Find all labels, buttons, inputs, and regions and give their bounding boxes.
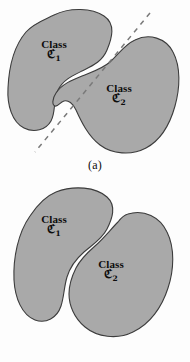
panel-b: Class ℭ1 Class ℭ2 (b) xyxy=(0,181,190,362)
panel-b-graphic xyxy=(0,181,190,362)
panel-a: Class ℭ1 Class ℭ2 (a) xyxy=(0,0,190,181)
panel-a-caption: (a) xyxy=(0,158,190,173)
figure-container: Class ℭ1 Class ℭ2 (a) Class ℭ1 Class ℭ2 … xyxy=(0,0,190,362)
panel-a-graphic xyxy=(0,0,190,181)
